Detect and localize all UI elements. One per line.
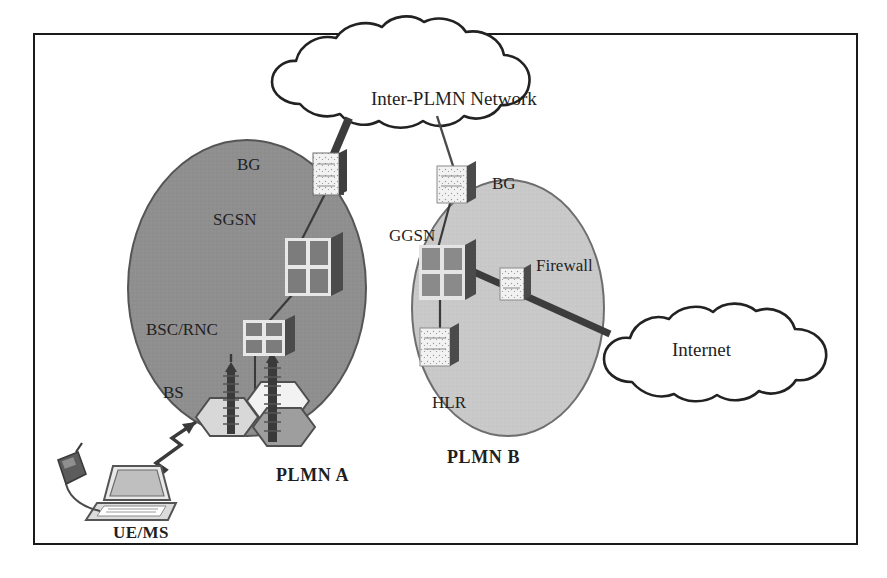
diagram-canvas: Inter-PLMN Network Internet BG SGSN BSC/… <box>0 0 887 578</box>
label-internet: Internet <box>672 339 731 361</box>
label-plmn-a: PLMN A <box>276 465 349 486</box>
server-icon-sgsn <box>285 232 343 296</box>
router-icon-firewall <box>500 264 531 300</box>
router-icon-bg-b <box>437 161 476 203</box>
router-icon-bg-a <box>313 149 347 195</box>
hex-cell-right <box>253 408 315 446</box>
label-ggsn: GGSN <box>389 226 435 246</box>
diagram-graphics <box>0 0 887 578</box>
server-icon-bsc-rnc <box>243 315 295 356</box>
label-ue-ms: UE/MS <box>113 523 169 543</box>
label-inter-plmn-network: Inter-PLMN Network <box>371 88 537 110</box>
mobile-phone-icon <box>58 443 100 511</box>
server-icon-ggsn <box>419 239 476 300</box>
label-firewall: Firewall <box>536 256 593 276</box>
label-plmn-b: PLMN B <box>447 447 520 468</box>
label-bg-b: BG <box>492 174 516 194</box>
inter-plmn-cloud <box>272 16 529 127</box>
label-hlr: HLR <box>432 393 466 413</box>
label-bsc-rnc: BSC/RNC <box>146 320 218 340</box>
label-bs: BS <box>163 383 184 403</box>
label-sgsn: SGSN <box>213 210 256 230</box>
label-bg-a: BG <box>237 155 261 175</box>
router-icon-hlr <box>420 323 459 366</box>
